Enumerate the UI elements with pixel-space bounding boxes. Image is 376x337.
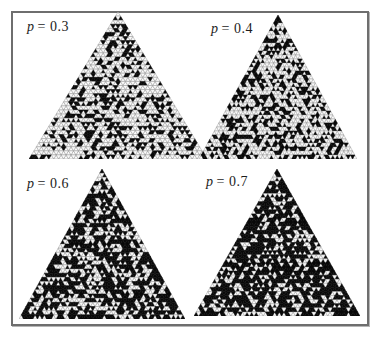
- p-value: = 0.4: [222, 21, 253, 36]
- panel-label-p07: p= 0.7: [206, 174, 248, 190]
- panel-p07: [194, 169, 360, 316]
- p-symbol: p: [27, 176, 35, 191]
- panel-label-p06: p= 0.6: [27, 176, 69, 192]
- triangle-lattice-p07: [194, 169, 360, 316]
- p-value: = 0.7: [217, 174, 248, 189]
- p-value: = 0.6: [38, 176, 69, 191]
- figure-canvas: p= 0.3 p= 0.4 p= 0.6 p= 0.7: [0, 0, 376, 337]
- p-value: = 0.3: [38, 19, 69, 34]
- panel-label-p03: p= 0.3: [27, 19, 69, 35]
- p-symbol: p: [27, 19, 35, 34]
- p-symbol: p: [211, 21, 219, 36]
- panel-label-p04: p= 0.4: [211, 21, 253, 37]
- p-symbol: p: [206, 174, 214, 189]
